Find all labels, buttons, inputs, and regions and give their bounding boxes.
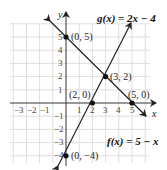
g-equation: g(x) = 2x − 4: [97, 13, 156, 24]
y-tick: 5: [58, 33, 63, 42]
y-tick: 3: [58, 59, 63, 68]
x-tick: −1: [40, 106, 50, 115]
point-label-3-2: (3, 2): [110, 72, 132, 82]
x-tick: −3: [14, 106, 24, 115]
y-tick: −2: [54, 125, 64, 134]
y-tick: −4: [54, 151, 64, 160]
x-axis-label: x: [152, 109, 156, 119]
y-tick: 2: [58, 72, 63, 81]
x-tick: −2: [27, 106, 37, 115]
y-tick: −3: [54, 138, 64, 147]
point-label-5-0: (5, 0): [128, 90, 150, 100]
x-tick: 1: [77, 106, 82, 115]
x-tick: 4: [116, 106, 121, 115]
y-tick: 4: [58, 46, 63, 55]
point-label-0-neg4: (0, −4): [71, 151, 98, 161]
y-axis-label: y: [58, 10, 62, 20]
point-label-0-5: (0, 5): [71, 32, 93, 42]
point-label-2-0: (2, 0): [69, 90, 91, 100]
x-tick: 3: [103, 106, 108, 115]
x-tick: 5: [130, 106, 135, 115]
y-tick: 1: [58, 86, 63, 95]
x-tick: 2: [90, 106, 95, 115]
y-tick: −1: [54, 112, 64, 121]
f-equation: f(x) = 5 − x: [107, 136, 158, 147]
